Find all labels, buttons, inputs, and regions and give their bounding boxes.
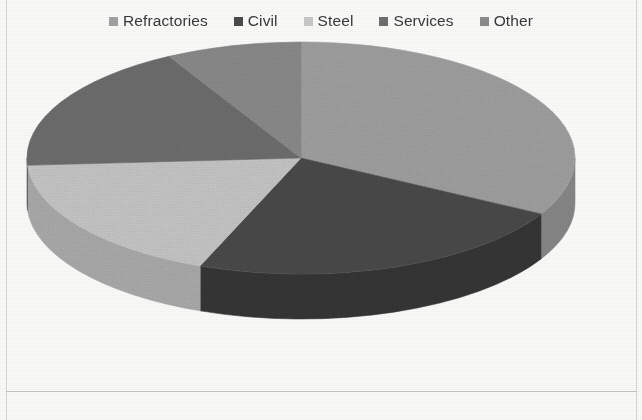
- legend-label: Steel: [318, 12, 354, 30]
- legend-swatch-icon: [379, 17, 388, 26]
- legend-swatch-icon: [234, 17, 243, 26]
- legend-label: Refractories: [123, 12, 208, 30]
- legend-label: Services: [393, 12, 453, 30]
- pie-top-surface: RefractoriesCivilSteelServicesOther: [27, 42, 575, 274]
- page-border-bottom: [6, 391, 637, 392]
- legend-label: Other: [494, 12, 533, 30]
- legend-item-steel[interactable]: Steel: [304, 12, 354, 30]
- legend-item-refractories[interactable]: Refractories: [109, 12, 208, 30]
- chart-legend: Refractories Civil Steel Services Other: [0, 8, 642, 34]
- legend-label: Civil: [248, 12, 278, 30]
- chart-page: Refractories Civil Steel Services Other: [0, 0, 642, 420]
- legend-swatch-icon: [480, 17, 489, 26]
- legend-swatch-icon: [304, 17, 313, 26]
- legend-item-services[interactable]: Services: [379, 12, 453, 30]
- legend-item-other[interactable]: Other: [480, 12, 533, 30]
- pie-chart-area: RefractoriesCivilSteelServicesOther: [0, 34, 642, 384]
- pie-chart-3d[interactable]: RefractoriesCivilSteelServicesOther: [0, 34, 642, 384]
- legend-item-civil[interactable]: Civil: [234, 12, 278, 30]
- legend-swatch-icon: [109, 17, 118, 26]
